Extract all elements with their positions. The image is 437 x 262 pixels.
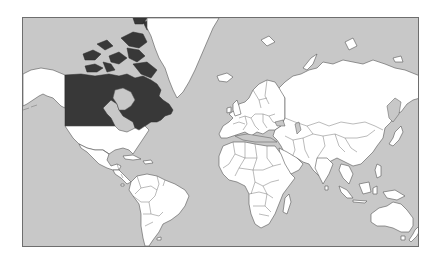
- sri-lanka: [325, 186, 328, 190]
- falkland-islands: [157, 237, 161, 240]
- madagascar: [283, 194, 291, 214]
- aleutian-islands: [23, 105, 37, 110]
- country-japan: [389, 126, 403, 146]
- tasmania: [401, 236, 405, 240]
- southeast-asia: [339, 164, 353, 184]
- novaya-zemlya: [303, 54, 317, 70]
- south-america: [129, 174, 189, 246]
- svalbard: [261, 36, 275, 46]
- central-america: [113, 170, 131, 184]
- cuba: [123, 155, 141, 160]
- canada-arctic-islands: [83, 18, 157, 78]
- mediterranean-sea: [235, 134, 277, 142]
- australia: [371, 202, 413, 232]
- new-siberian-islands: [393, 56, 403, 62]
- united-kingdom: [233, 100, 241, 116]
- country-usa: [65, 126, 149, 154]
- world-map: World map with Canada highlighted: [22, 17, 419, 247]
- map-canvas: [23, 18, 419, 247]
- iceland: [217, 73, 233, 82]
- sumatra: [339, 186, 353, 198]
- philippines: [375, 164, 381, 178]
- severnaya-zemlya: [345, 38, 357, 50]
- country-usa-alaska: [23, 68, 65, 108]
- java: [353, 200, 367, 203]
- borneo: [359, 182, 371, 194]
- sulawesi: [373, 186, 377, 194]
- india: [315, 158, 333, 184]
- hispaniola: [143, 160, 153, 164]
- ireland: [227, 107, 231, 113]
- galapagos: [121, 184, 124, 186]
- new-guinea: [383, 190, 405, 200]
